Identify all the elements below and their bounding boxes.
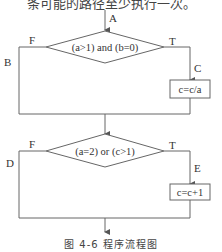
decision1-false-line [19,47,46,114]
decision2-false-line [19,151,46,218]
path-label-e: E [194,162,201,174]
decision1-condition: (a>1) and (b=0) [72,42,139,54]
figure-caption: 图 4-6 程序流程图 [0,236,222,251]
decision2-false-label: F [29,138,35,150]
process2-text: c=c+1 [177,187,203,198]
decision2-true-line [164,151,190,184]
decision1-true-line [164,47,190,80]
flowchart: A (a>1) and (b=0) F T B C c=c/a (a=2) or… [0,0,222,252]
join2-line [19,200,190,218]
decision1-false-label: F [29,34,35,46]
path-label-c: C [194,62,201,74]
decision2-condition: (a=2) or (c>1) [75,146,135,158]
decision2-true-label: T [169,139,176,151]
decision1-true-label: T [169,35,176,47]
path-label-b: B [4,56,11,68]
entry-label: A [109,12,117,24]
process1-text: c=c/a [179,84,202,95]
path-label-d: D [6,157,14,169]
join1-line [19,98,190,114]
